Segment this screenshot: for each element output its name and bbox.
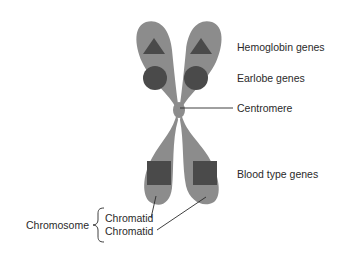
earlobe-gene-circle-right [184,66,208,90]
centromere-region [173,102,185,118]
chromatid-left-upper-arm [136,21,178,108]
chromosome-diagram: Hemoglobin genes Earlobe genes Centromer… [0,0,347,253]
chromatid-left-lower-arm [144,112,178,205]
earlobe-gene-circle-left [143,66,167,90]
label-hemoglobin-genes: Hemoglobin genes [237,41,325,53]
chromatid-right-upper-arm [180,21,222,108]
chromatid-right-lower-arm [180,112,219,204]
blood-type-gene-square-right [193,161,217,185]
label-blood-type-genes: Blood type genes [237,168,318,180]
chromatid-brace [93,208,104,242]
label-chromatid-2: Chromatid [105,225,154,237]
label-chromosome: Chromosome [26,219,89,231]
blood-type-gene-square-left [147,161,171,185]
label-centromere: Centromere [237,102,293,114]
label-chromatid-1: Chromatid [105,212,154,224]
label-earlobe-genes: Earlobe genes [237,72,305,84]
